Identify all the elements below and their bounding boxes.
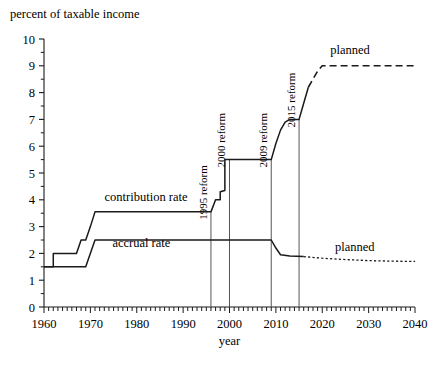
x-tick-label: 1980 — [124, 317, 149, 331]
y-tick-label: 10 — [23, 33, 36, 47]
x-tick-label: 1960 — [32, 317, 57, 331]
x-tick-label: 1990 — [171, 317, 196, 331]
planned-lower-label: planned — [335, 240, 375, 254]
y-tick-label: 7 — [29, 113, 35, 127]
accrual-rate-label: accrual rate — [112, 236, 170, 250]
y-tick-label: 6 — [29, 140, 35, 154]
planned-upper-label: planned — [330, 43, 370, 57]
series-accrual-rate — [44, 240, 304, 267]
x-tick-label: 2040 — [403, 317, 428, 331]
x-axis-title: year — [219, 334, 241, 348]
x-tick-label: 1970 — [78, 317, 103, 331]
y-tick-label: 2 — [29, 247, 35, 261]
x-tick-label: 2030 — [356, 317, 381, 331]
contribution-rate-label: contribution rate — [105, 190, 188, 204]
y-tick-label: 5 — [29, 167, 35, 181]
line-chart: percent of taxable income012345678910196… — [0, 0, 438, 372]
y-tick-label: 4 — [29, 193, 36, 207]
y-tick-label: 8 — [29, 86, 35, 100]
y-tick-label: 9 — [29, 59, 35, 73]
chart-container: percent of taxable income012345678910196… — [0, 0, 438, 372]
series-accrual-rate-planned — [304, 257, 415, 262]
y-tick-label: 3 — [29, 220, 35, 234]
x-tick-label: 2010 — [263, 317, 288, 331]
y-axis-title: percent of taxable income — [10, 7, 140, 21]
x-tick-label: 2000 — [217, 317, 242, 331]
y-tick-label: 1 — [29, 274, 35, 288]
y-tick-label: 0 — [29, 301, 35, 315]
x-tick-label: 2020 — [310, 317, 335, 331]
series-contribution-rate-planned — [308, 66, 415, 87]
